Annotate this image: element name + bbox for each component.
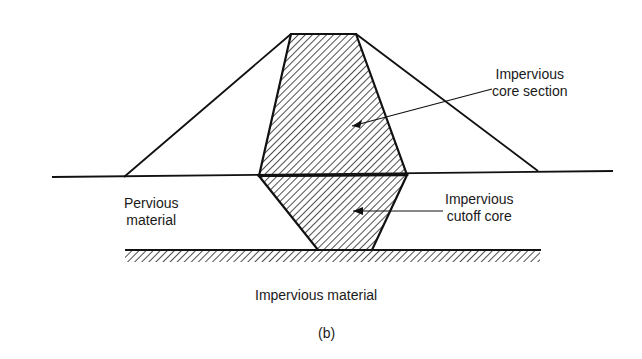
label-pervious: Pervious material [124,195,178,229]
label-impervious-material: Impervious material [255,287,377,304]
impervious-base-hatch [125,251,540,262]
dam-cross-section-diagram [0,0,642,359]
impervious-cutoff-core [259,175,407,250]
label-cutoff-core: Impervious cutoff core [445,191,513,225]
figure-caption: (b) [318,325,335,342]
label-core-section: Impervious core section [492,66,567,100]
